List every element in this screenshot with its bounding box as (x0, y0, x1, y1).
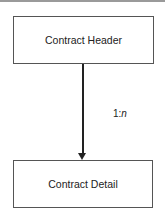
arrowhead-icon (78, 153, 86, 160)
node-contract-header: Contract Header (13, 16, 154, 64)
edge-line (82, 64, 84, 154)
top-border-line (0, 0, 165, 2)
node-contract-detail: Contract Detail (13, 160, 153, 208)
node-label: Contract Detail (48, 178, 117, 190)
node-label: Contract Header (45, 34, 122, 46)
edge-cardinality-label: 1:n (113, 108, 127, 119)
